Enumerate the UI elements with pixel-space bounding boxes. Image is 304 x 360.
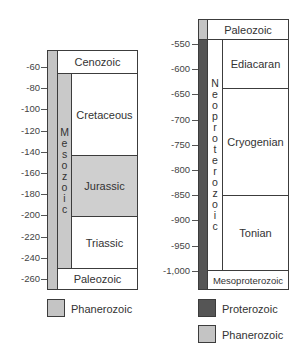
tonian-label: Tonian — [239, 227, 271, 239]
right-axis-tick-label: -1,000 — [154, 266, 190, 276]
jurassic-label: Jurassic — [84, 180, 124, 192]
legend-label-phanerozoic-left: Phanerozoic — [71, 303, 132, 315]
right-axis-tick-label: -950 — [154, 241, 190, 251]
cryogenian-label: Cryogenian — [227, 136, 283, 148]
cenozoic-label: Cenozoic — [75, 56, 121, 68]
left-axis-tick-label: -100 — [4, 104, 40, 114]
right-axis-tick-label: -650 — [154, 89, 190, 99]
mesozoic-letter: c — [62, 204, 67, 215]
ediacaran-box: Ediacaran — [222, 39, 289, 89]
legend-label-proterozoic: Proterozoic — [222, 303, 278, 315]
paleozoic-label-right: Paleozoic — [224, 24, 272, 36]
paleozoic-box-right: Paleozoic — [207, 19, 289, 40]
right-axis-tick-label: -550 — [154, 39, 190, 49]
legend-label-phanerozoic-right: Phanerozoic — [222, 329, 283, 341]
mesoproterozoic-box: Mesoproterozoic — [207, 270, 289, 290]
right-axis-tick-label: -850 — [154, 190, 190, 200]
paleozoic-label-left: Paleozoic — [74, 273, 122, 285]
right-axis-tick-label: -800 — [154, 165, 190, 175]
left-axis-tick-label: -120 — [4, 126, 40, 136]
left-axis-tick-label: -260 — [4, 274, 40, 284]
mesoproterozoic-label: Mesoproterozoic — [213, 275, 283, 286]
mesozoic-column: Mesozoic — [57, 73, 72, 269]
ediacaran-label: Ediacaran — [231, 58, 281, 70]
jurassic-box: Jurassic — [71, 155, 138, 217]
left-axis-tick-label: -200 — [4, 210, 40, 220]
triassic-label: Triassic — [86, 237, 123, 249]
right-axis-tick-label: -750 — [154, 140, 190, 150]
cretaceous-box: Cretaceous — [71, 73, 138, 156]
legend-swatch-proterozoic — [198, 299, 216, 317]
right-axis-tick-label: -700 — [154, 115, 190, 125]
tonian-box: Tonian — [222, 195, 289, 271]
triassic-box: Triassic — [71, 216, 138, 269]
left-axis-tick-label: -240 — [4, 253, 40, 263]
left-axis-tick-label: -60 — [4, 62, 40, 72]
cenozoic-box: Cenozoic — [57, 50, 138, 74]
left-axis-tick-label: -180 — [4, 189, 40, 199]
cryogenian-box: Cryogenian — [222, 88, 289, 196]
left-axis-tick-label: -160 — [4, 168, 40, 178]
neoproterozoic-letter: c — [212, 221, 217, 232]
paleozoic-box-left: Paleozoic — [57, 268, 138, 290]
neoproterozoic-column: Neoproterozoic — [207, 39, 223, 271]
cretaceous-label: Cretaceous — [76, 109, 132, 121]
legend-swatch-phanerozoic-right — [198, 325, 216, 343]
right-axis-tick-label: -900 — [154, 215, 190, 225]
left-axis-tick-label: -220 — [4, 232, 40, 242]
left-axis-tick-label: -140 — [4, 147, 40, 157]
right-axis-tick-label: -600 — [154, 64, 190, 74]
legend-swatch-phanerozoic-left — [47, 299, 65, 317]
left-axis-tick-label: -80 — [4, 83, 40, 93]
